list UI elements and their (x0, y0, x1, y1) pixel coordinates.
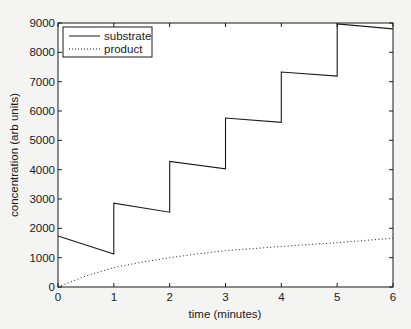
legend: substrate product (63, 27, 152, 57)
y-tick-label: 9000 (29, 17, 55, 29)
y-tick-label: 6000 (29, 105, 55, 117)
concentration-chart: 0123456010002000300040005000600070008000… (0, 0, 411, 329)
y-axis-label: concentration (arb units) (8, 93, 20, 217)
x-axis-label: time (minutes) (189, 308, 262, 320)
y-tick-label: 7000 (29, 76, 55, 88)
legend-product-label: product (104, 43, 143, 55)
y-tick-label: 2000 (29, 222, 55, 234)
y-tick-label: 3000 (29, 193, 55, 205)
y-tick-label: 1000 (29, 252, 55, 264)
x-tick-label: 1 (111, 291, 117, 303)
x-tick-label: 3 (222, 291, 228, 303)
y-tick-label: 0 (49, 281, 55, 293)
y-tick-label: 5000 (29, 134, 55, 146)
y-tick-label: 4000 (29, 164, 55, 176)
x-tick-label: 6 (390, 291, 396, 303)
x-tick-label: 2 (166, 291, 172, 303)
y-tick-label: 8000 (29, 46, 55, 58)
x-tick-label: 4 (278, 291, 285, 303)
legend-substrate-label: substrate (104, 30, 151, 42)
x-tick-label: 0 (55, 291, 61, 303)
x-tick-label: 5 (334, 291, 340, 303)
